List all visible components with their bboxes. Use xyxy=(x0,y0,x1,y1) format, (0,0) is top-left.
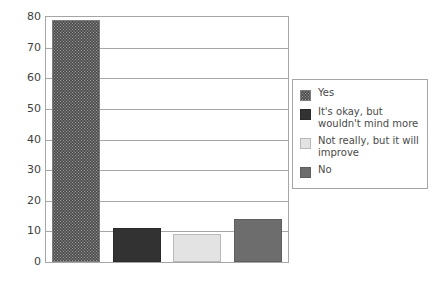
y-tick-label: 70 xyxy=(0,41,41,52)
y-tick-label: 10 xyxy=(0,225,41,236)
y-axis: 80 70 60 50 40 30 20 10 0 xyxy=(0,16,41,263)
legend-item-label: No xyxy=(318,164,332,176)
bar-yes[interactable] xyxy=(52,20,100,262)
legend-item-label: Not really, but it will improve xyxy=(318,135,421,159)
legend-swatch-icon xyxy=(300,90,311,101)
legend: Yes It's okay, but wouldn't mind more No… xyxy=(292,79,428,189)
legend-item-label: Yes xyxy=(318,87,334,99)
y-tick-label: 30 xyxy=(0,164,41,175)
bars-layer xyxy=(46,17,288,262)
legend-swatch-icon xyxy=(300,109,311,120)
legend-item-not-really[interactable]: Not really, but it will improve xyxy=(300,135,421,159)
y-tick-label: 80 xyxy=(0,11,41,22)
bar-not-really[interactable] xyxy=(173,234,221,262)
y-tick-label: 40 xyxy=(0,133,41,144)
y-tick-label: 20 xyxy=(0,194,41,205)
y-tick-label: 60 xyxy=(0,72,41,83)
legend-item-its-okay[interactable]: It's okay, but wouldn't mind more xyxy=(300,106,421,130)
bar-slot xyxy=(167,17,228,262)
legend-item-label: It's okay, but wouldn't mind more xyxy=(318,106,421,130)
bar-slot xyxy=(228,17,289,262)
legend-item-yes[interactable]: Yes xyxy=(300,87,421,101)
bar-chart: 80 70 60 50 40 30 20 10 0 xyxy=(0,0,448,282)
bar-its-okay[interactable] xyxy=(113,228,161,262)
plot-area xyxy=(45,16,289,263)
y-tick-label: 0 xyxy=(0,256,41,267)
bar-no[interactable] xyxy=(234,219,282,262)
bar-slot xyxy=(107,17,168,262)
legend-swatch-icon xyxy=(300,167,311,178)
y-tick-label: 50 xyxy=(0,102,41,113)
legend-item-no[interactable]: No xyxy=(300,164,421,178)
legend-swatch-icon xyxy=(300,138,311,149)
bar-slot xyxy=(46,17,107,262)
